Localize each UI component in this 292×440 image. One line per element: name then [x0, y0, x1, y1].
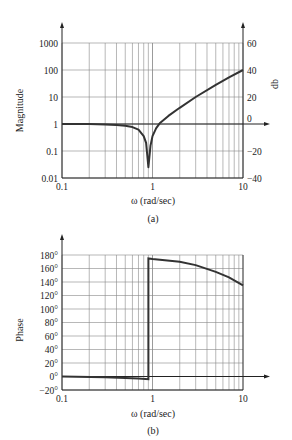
x-tick-label: 0.1 — [56, 394, 68, 404]
arrow-right-icon — [264, 375, 270, 379]
y-tick-label: 100 — [44, 66, 59, 76]
y-tick-label: 140° — [40, 278, 58, 288]
x-tick-label: 0.1 — [56, 182, 68, 192]
y-tick-label-right: −40 — [247, 174, 262, 184]
y-tick-label: 0° — [49, 372, 58, 382]
y-tick-label: 120° — [40, 291, 58, 301]
y-axis-label-right: db — [269, 79, 280, 89]
arrow-right-icon — [264, 122, 270, 126]
y-tick-label: 20° — [45, 359, 59, 369]
x-tick-label: 1 — [150, 394, 155, 404]
x-tick-label: 10 — [238, 182, 248, 192]
y-tick-label: 1000 — [39, 39, 58, 49]
y-tick-label: 80° — [45, 318, 59, 328]
x-axis-label: ω (rad/sec) — [131, 195, 175, 207]
y-tick-label: 160° — [40, 264, 58, 274]
y-tick-label: 40° — [45, 345, 59, 355]
panel-label: (a) — [147, 213, 158, 225]
y-tick-label-right: 60 — [247, 39, 257, 49]
magnitude-plot: 0.010.11101001000−40−2002040600.1110Magn… — [14, 22, 280, 225]
arrow-up-icon — [241, 22, 245, 28]
y-tick-label-right: 0 — [247, 114, 252, 124]
x-tick-label: 10 — [238, 394, 248, 404]
panel-label: (b) — [147, 425, 159, 437]
x-axis-label: ω (rad/sec) — [131, 408, 175, 420]
x-tick-label: 1 — [150, 182, 155, 192]
arrow-up-icon — [60, 234, 64, 240]
phase-plot: −20°0°20°40°60°80°100°120°140°160°180°0.… — [14, 234, 270, 437]
y-tick-label: 1 — [53, 120, 58, 130]
bode-plot: 0.010.11101001000−40−2002040600.1110Magn… — [0, 0, 292, 440]
y-tick-label: 0.1 — [46, 147, 58, 157]
y-axis-label: Phase — [14, 318, 25, 342]
y-tick-label: 100° — [40, 305, 58, 315]
arrow-up-icon — [60, 22, 64, 28]
y-tick-label-right: 40 — [247, 66, 257, 76]
y-tick-label-right: −20 — [247, 147, 262, 157]
y-tick-label-right: 20 — [247, 93, 257, 103]
y-axis-label: Magnitude — [14, 88, 25, 132]
y-tick-label: 10 — [49, 93, 59, 103]
y-tick-label: 60° — [45, 332, 59, 342]
y-tick-label: 180° — [40, 251, 58, 261]
